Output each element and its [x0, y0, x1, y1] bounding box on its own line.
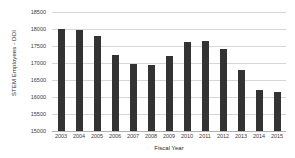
- x-axis-tick-labels: 2003200420052006200720082009201020112012…: [52, 133, 286, 139]
- bar: [238, 70, 245, 131]
- bar: [76, 30, 83, 131]
- bar: [184, 42, 191, 131]
- bar: [274, 92, 281, 131]
- x-axis-tick-label: 2007: [124, 133, 142, 139]
- y-axis-tick-label: 18000: [31, 26, 46, 32]
- y-axis-tick-label: 18500: [31, 9, 46, 15]
- bar-slot: [250, 12, 268, 131]
- y-axis-tick-label: 17000: [31, 60, 46, 66]
- bar-slot: [52, 12, 70, 131]
- bar: [202, 41, 209, 131]
- y-axis-tick-label: 16500: [31, 77, 46, 83]
- x-axis-tick-label: 2013: [232, 133, 250, 139]
- x-axis-tick-label: 2012: [214, 133, 232, 139]
- x-axis-tick-label: 2014: [250, 133, 268, 139]
- bar-chart: STEM Employees - DOI 1850018000175001700…: [0, 0, 295, 158]
- x-axis-tick-label: 2010: [178, 133, 196, 139]
- bar-series: [52, 12, 286, 131]
- bar-slot: [88, 12, 106, 131]
- bar-slot: [160, 12, 178, 131]
- bar-slot: [268, 12, 286, 131]
- bar-slot: [178, 12, 196, 131]
- bar: [256, 90, 263, 131]
- x-axis-tick-label: 2011: [196, 133, 214, 139]
- bar-slot: [232, 12, 250, 131]
- bar-slot: [106, 12, 124, 131]
- bar: [220, 49, 227, 131]
- x-axis-title: Fiscal Year: [52, 145, 286, 151]
- x-axis-tick-label: 2003: [52, 133, 70, 139]
- gridline: [52, 131, 286, 132]
- bar-slot: [142, 12, 160, 131]
- y-axis-tick-labels: 1850018000175001700016500160001550015000: [0, 12, 50, 131]
- bar-slot: [70, 12, 88, 131]
- y-axis-tick-label: 15500: [31, 111, 46, 117]
- bar: [58, 29, 65, 131]
- x-axis-tick-label: 2006: [106, 133, 124, 139]
- x-axis-tick-label: 2005: [88, 133, 106, 139]
- y-axis-tick-label: 15000: [31, 128, 46, 134]
- bar: [130, 64, 137, 131]
- bar: [112, 55, 119, 132]
- bar: [166, 56, 173, 131]
- bar-slot: [196, 12, 214, 131]
- bar: [94, 36, 101, 131]
- x-axis-tick-label: 2004: [70, 133, 88, 139]
- x-axis-tick-label: 2009: [160, 133, 178, 139]
- y-axis-tick-label: 17500: [31, 43, 46, 49]
- y-axis-tick-label: 16000: [31, 94, 46, 100]
- x-axis-tick-label: 2015: [268, 133, 286, 139]
- bar: [148, 65, 155, 131]
- bar-slot: [124, 12, 142, 131]
- x-axis-tick-label: 2008: [142, 133, 160, 139]
- plot-area: [52, 12, 286, 131]
- bar-slot: [214, 12, 232, 131]
